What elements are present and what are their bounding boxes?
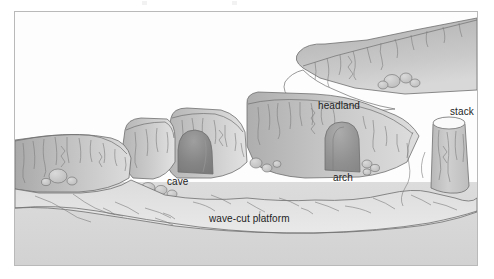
boulder	[363, 169, 371, 175]
cave-opening	[178, 130, 213, 174]
arch-opening	[325, 122, 360, 172]
label-cave: cave	[167, 176, 189, 187]
boulder	[67, 177, 77, 185]
label-headland: headland	[318, 100, 360, 111]
scan-artifact-right	[232, 1, 237, 5]
label-arch: arch	[333, 172, 353, 183]
left-cliff-landform	[15, 134, 131, 192]
stack-landform	[431, 117, 469, 193]
label-wave-cut-platform: wave-cut platform	[209, 213, 290, 224]
boulder	[49, 169, 67, 183]
cave-cliff-landform	[165, 108, 247, 178]
coastal-erosion-illustration	[15, 12, 477, 265]
boulder	[42, 178, 51, 185]
boulder	[410, 79, 420, 87]
boulder	[378, 81, 388, 89]
boulder	[273, 161, 281, 168]
label-stack: stack	[450, 106, 474, 117]
diagram-frame: headland stack cave arch wave-cut platfo…	[14, 11, 478, 266]
boulder	[371, 164, 380, 171]
scan-artifact-left	[142, 1, 147, 5]
boulder	[250, 158, 262, 168]
stack-top	[433, 117, 465, 129]
boulder	[262, 164, 272, 172]
figure-page: headland stack cave arch wave-cut platfo…	[0, 0, 494, 279]
